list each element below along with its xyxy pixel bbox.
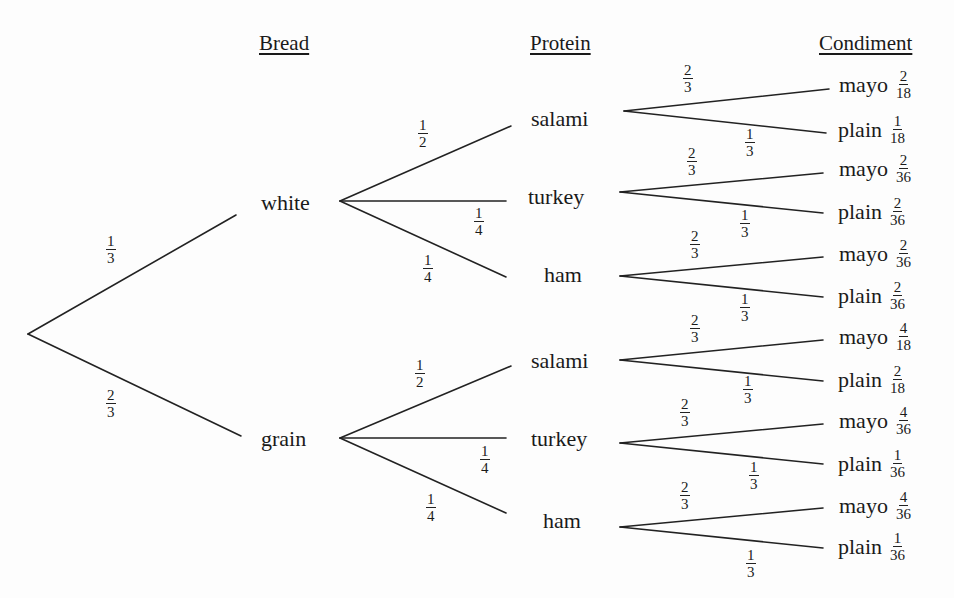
leaf-g-ham-plain: plain136 — [838, 531, 905, 563]
leaf-g-salami-mayo: mayo418 — [839, 321, 911, 353]
leaf-w-ham-mayo: mayo236 — [839, 238, 911, 270]
node-white: white — [261, 192, 310, 214]
edge-label-w-ham-plain: 13 — [740, 292, 750, 324]
edge-label-g-ham-mayo: 23 — [680, 480, 690, 512]
leaf-w-turkey-mayo: mayo236 — [839, 153, 911, 185]
edge-label-g-turkey-mayo: 23 — [680, 397, 690, 429]
leaf-g-turkey-plain: plain136 — [838, 448, 905, 480]
node-grain-salami: salami — [531, 350, 588, 372]
edge-label-g-salami-plain: 13 — [743, 374, 753, 406]
node-white-turkey: turkey — [528, 186, 584, 208]
leaf-w-salami-mayo: mayo218 — [839, 69, 911, 101]
leaf-g-salami-plain: plain218 — [838, 364, 905, 396]
edge-label-grain-ham: 14 — [426, 492, 436, 524]
edge-label-white-salami: 12 — [418, 118, 428, 150]
edge-label-white-ham: 14 — [423, 253, 433, 285]
header-protein: Protein — [530, 31, 591, 56]
edge-label-w-turkey-plain: 13 — [740, 208, 750, 240]
header-bread: Bread — [259, 31, 309, 56]
edge-label-g-ham-plain: 13 — [746, 548, 756, 580]
node-grain-ham: ham — [543, 510, 581, 532]
tree-edges — [0, 0, 954, 598]
leaf-w-turkey-plain: plain236 — [838, 196, 905, 228]
edge-label-w-turkey-mayo: 23 — [687, 146, 697, 178]
leaf-g-turkey-mayo: mayo436 — [839, 405, 911, 437]
tree-diagram: Bread Protein Condiment 13 23 white grai… — [0, 0, 954, 598]
edge-label-g-turkey-plain: 13 — [749, 460, 759, 492]
edge-label-g-salami-mayo: 23 — [690, 313, 700, 345]
header-condiment: Condiment — [819, 31, 912, 56]
leaf-g-ham-mayo: mayo436 — [839, 490, 911, 522]
edge-label-white: 13 — [106, 234, 116, 266]
leaf-w-ham-plain: plain236 — [838, 280, 905, 312]
node-white-ham: ham — [544, 264, 582, 286]
node-grain-turkey: turkey — [531, 428, 587, 450]
edge-label-white-turkey: 14 — [474, 206, 484, 238]
edge-label-w-salami-mayo: 23 — [683, 63, 693, 95]
leaf-w-salami-plain: plain118 — [838, 114, 905, 146]
edge-label-w-salami-plain: 13 — [745, 127, 755, 159]
edge-label-grain: 23 — [106, 388, 116, 420]
edge-label-grain-turkey: 14 — [480, 444, 490, 476]
node-grain: grain — [261, 428, 306, 450]
edge-label-grain-salami: 12 — [415, 358, 425, 390]
edge-label-w-ham-mayo: 23 — [690, 229, 700, 261]
node-white-salami: salami — [531, 108, 588, 130]
